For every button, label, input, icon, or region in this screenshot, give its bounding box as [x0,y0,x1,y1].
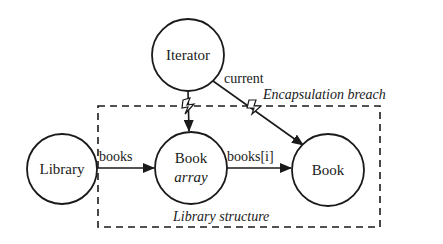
node-label: Library [40,161,85,177]
node-label: Iterator [166,47,210,63]
node-label: Book [312,162,345,178]
diagram-canvas: Iterator Library Book array Book books b… [0,0,443,244]
node-sublabel: array [174,169,208,185]
edge-label-current: current [224,71,264,86]
annotation-encapsulation-breach: Encapsulation breach [262,87,386,102]
edge-label-books: books [99,149,132,164]
annotation-library-structure: Library structure [172,209,269,224]
node-label: Book [175,150,208,166]
node-book-array: Book array [155,132,227,204]
node-iterator: Iterator [152,19,224,91]
node-book: Book [292,134,364,206]
lightning-bolt-icon [247,100,261,114]
edge-label-books-i: books[i] [227,149,274,164]
node-library: Library [27,134,97,204]
